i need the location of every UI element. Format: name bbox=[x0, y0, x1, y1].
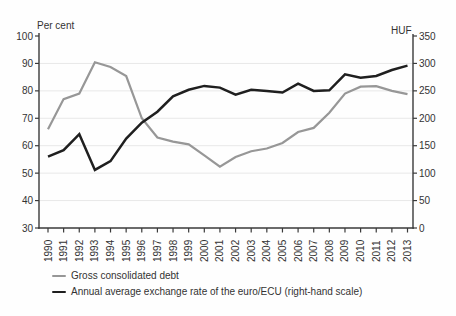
left-axis-tick-label: 50 bbox=[22, 168, 34, 179]
left-axis-tick-label: 60 bbox=[22, 140, 34, 151]
x-axis-year-label: 1992 bbox=[74, 239, 85, 262]
legend-item-debt: Gross consolidated debt bbox=[52, 268, 362, 284]
x-axis-year-label: 2001 bbox=[214, 239, 225, 262]
x-axis-year-label: 1991 bbox=[58, 239, 69, 262]
right-axis-tick-label: 200 bbox=[419, 113, 436, 124]
right-axis-tick-label: 100 bbox=[419, 168, 436, 179]
x-axis-year-label: 1997 bbox=[152, 239, 163, 262]
exchange-rate-legend-label: Annual average exchange rate of the euro… bbox=[71, 286, 362, 298]
right-axis-tick-label: 350 bbox=[419, 31, 436, 42]
x-axis-year-label: 1993 bbox=[89, 239, 100, 262]
x-axis-year-label: 2000 bbox=[199, 239, 210, 262]
right-axis-tick-label: 50 bbox=[419, 195, 431, 206]
x-axis-year-label: 1998 bbox=[168, 239, 179, 262]
left-axis-tick-label: 80 bbox=[22, 85, 34, 96]
x-axis-year-label: 2006 bbox=[293, 239, 304, 262]
chart-page: Per cent HUF 304050607080901000501001502… bbox=[0, 0, 456, 316]
left-axis-tick-label: 30 bbox=[22, 223, 34, 234]
series-line-0 bbox=[48, 62, 408, 166]
debt-line-swatch bbox=[52, 275, 66, 278]
debt-legend-label: Gross consolidated debt bbox=[71, 270, 179, 282]
x-axis-year-label: 2013 bbox=[402, 239, 413, 262]
x-axis-year-label: 2005 bbox=[277, 239, 288, 262]
x-axis-year-label: 2002 bbox=[230, 239, 241, 262]
x-axis-year-label: 2012 bbox=[386, 239, 397, 262]
x-axis-year-label: 2009 bbox=[339, 239, 350, 262]
x-axis-year-label: 2011 bbox=[371, 240, 382, 262]
legend: Gross consolidated debt Annual average e… bbox=[52, 268, 362, 300]
x-axis-year-label: 1994 bbox=[105, 239, 116, 262]
x-axis-year-label: 1996 bbox=[136, 239, 147, 262]
tick-labels: 3040506070809010005010015020025030035019… bbox=[16, 31, 436, 263]
right-axis-tick-label: 300 bbox=[419, 58, 436, 69]
right-axis-tick-label: 150 bbox=[419, 140, 436, 151]
right-axis-tick-label: 250 bbox=[419, 85, 436, 96]
exchange-rate-line-swatch bbox=[52, 291, 66, 294]
legend-item-exchange-rate: Annual average exchange rate of the euro… bbox=[52, 284, 362, 300]
x-axis-year-label: 2007 bbox=[308, 239, 319, 262]
x-axis-year-label: 1995 bbox=[121, 239, 132, 262]
gridlines bbox=[40, 63, 413, 200]
series-line-1 bbox=[48, 66, 408, 170]
x-axis-year-label: 1990 bbox=[43, 239, 54, 262]
left-axis-tick-label: 40 bbox=[22, 195, 34, 206]
left-axis-tick-label: 70 bbox=[22, 113, 34, 124]
x-axis-year-label: 2003 bbox=[246, 239, 257, 262]
x-axis-year-label: 1999 bbox=[183, 239, 194, 262]
right-axis-tick-label: 0 bbox=[419, 223, 425, 234]
x-axis-year-label: 2010 bbox=[355, 239, 366, 262]
x-axis-year-label: 2004 bbox=[261, 239, 272, 262]
left-axis-tick-label: 100 bbox=[16, 31, 33, 42]
left-axis-tick-label: 90 bbox=[22, 58, 34, 69]
x-axis-year-label: 2008 bbox=[324, 239, 335, 262]
